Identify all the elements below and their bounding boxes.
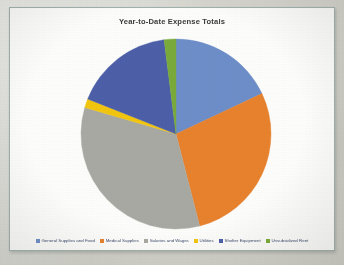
legend-swatch-icon	[219, 239, 223, 243]
legend-label: Unsubsidized Rent	[271, 239, 308, 243]
legend-swatch-icon	[144, 239, 148, 243]
legend-item[interactable]: Utilities	[194, 239, 214, 243]
legend-swatch-icon	[36, 239, 40, 243]
legend-swatch-icon	[100, 239, 104, 243]
legend-swatch-icon	[194, 239, 198, 243]
chart-card: Year-to-Date Expense Totals General Supp…	[9, 7, 335, 251]
pie-chart-area	[10, 8, 336, 252]
legend-swatch-icon	[266, 239, 270, 243]
legend-item[interactable]: General Supplies and Food	[36, 239, 95, 243]
pie-chart-svg	[10, 8, 336, 252]
legend-label: Medical Supplies	[106, 239, 139, 243]
pie-slices	[81, 39, 271, 229]
legend-label: Salaries and Wages	[150, 239, 189, 243]
chart-legend: General Supplies and FoodMedical Supplie…	[10, 239, 334, 243]
scanned-page: Year-to-Date Expense Totals General Supp…	[0, 0, 344, 265]
legend-label: Utilities	[200, 239, 214, 243]
legend-item[interactable]: Shelter Equipment	[219, 239, 261, 243]
legend-item[interactable]: Medical Supplies	[100, 239, 139, 243]
legend-label: General Supplies and Food	[41, 239, 94, 243]
legend-label: Shelter Equipment	[225, 239, 261, 243]
legend-item[interactable]: Unsubsidized Rent	[266, 239, 309, 243]
legend-item[interactable]: Salaries and Wages	[144, 239, 189, 243]
